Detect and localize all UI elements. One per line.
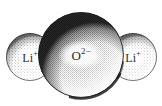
cation-right-charge: +	[136, 49, 141, 58]
ion-diagram-figure: Li+ O2− Li+	[0, 0, 162, 106]
label-cation-right: Li+	[125, 49, 141, 65]
label-cation-left: Li+	[22, 49, 38, 65]
anion-center-symbol: O	[71, 48, 81, 63]
anion-center-charge: 2−	[81, 46, 91, 56]
cation-left-symbol: Li	[22, 51, 33, 65]
cation-left-charge: +	[33, 49, 38, 58]
label-anion-center: O2−	[71, 47, 90, 63]
cation-right-symbol: Li	[125, 51, 136, 65]
